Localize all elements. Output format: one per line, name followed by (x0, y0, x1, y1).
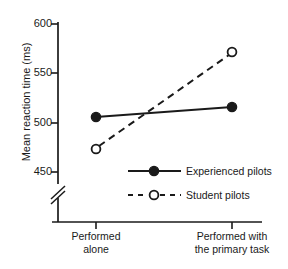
data-point-student-alone (92, 145, 101, 154)
x-category-line-1: Performed with (177, 230, 287, 243)
plot-area (0, 0, 288, 269)
series-student-pilots (92, 48, 237, 154)
data-point-experienced-alone (91, 112, 100, 121)
series-line-student-pilots (99, 55, 229, 146)
legend-mark-experienced-pilots (128, 166, 181, 175)
data-point-student-primary-task (228, 48, 237, 57)
legend-mark-student-pilots (128, 191, 181, 200)
x-category-label-performed-with-primary-task: Performed with the primary task (177, 230, 287, 255)
chart-figure: Mean reaction time (ms) 600 550 500 450 (0, 0, 288, 269)
data-point-experienced-primary-task (227, 102, 236, 111)
x-category-line-1: Performed (46, 230, 146, 243)
x-category-label-performed-alone: Performed alone (46, 230, 146, 255)
legend-label-student-pilots: Student pilots (186, 189, 250, 201)
x-category-line-2: alone (46, 243, 146, 256)
legend-label-experienced-pilots: Experienced pilots (186, 165, 272, 177)
series-experienced-pilots (91, 102, 236, 121)
series-line-experienced-pilots (96, 107, 232, 117)
x-category-line-2: the primary task (177, 243, 287, 256)
